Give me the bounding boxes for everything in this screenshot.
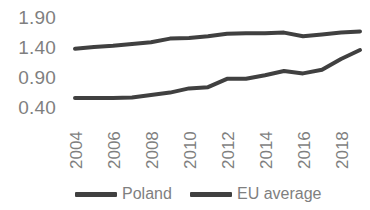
x-axis-tick-label: 2008 bbox=[144, 131, 161, 169]
x-axis-tick-label: 2006 bbox=[106, 131, 123, 169]
x-axis-tick-label: 2010 bbox=[182, 131, 199, 169]
legend-swatch-icon bbox=[75, 192, 117, 197]
x-axis-tick-label: 2016 bbox=[296, 131, 313, 169]
line-chart: 1.90 1.40 0.90 0.40 2004 2006 2008 2010 … bbox=[0, 0, 370, 210]
x-axis-tick-label: 2012 bbox=[220, 131, 237, 169]
legend-label: EU average bbox=[237, 186, 322, 202]
legend-label: Poland bbox=[122, 186, 172, 202]
plot-svg bbox=[0, 0, 370, 120]
legend-swatch-icon bbox=[190, 192, 232, 197]
series-line-eu-average bbox=[75, 31, 360, 48]
x-axis: 2004 2006 2008 2010 2012 2014 2016 2018 bbox=[0, 117, 370, 177]
series-line-poland bbox=[75, 50, 360, 98]
x-axis-tick-label: 2004 bbox=[68, 131, 85, 169]
x-axis-tick-label: 2014 bbox=[258, 131, 275, 169]
x-axis-tick-label: 2018 bbox=[334, 131, 351, 169]
legend-item-poland[interactable]: Poland bbox=[75, 186, 172, 202]
plot-area bbox=[0, 0, 370, 120]
legend: Poland EU average bbox=[0, 182, 370, 206]
legend-item-eu-average[interactable]: EU average bbox=[190, 186, 322, 202]
